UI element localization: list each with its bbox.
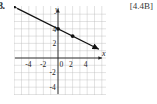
data-point (71, 34, 75, 38)
y-tick-label: 2 (53, 39, 57, 48)
y-tick-label: -4 (50, 83, 56, 92)
x-tick-label: 0 (60, 60, 64, 69)
data-point (56, 27, 60, 31)
y-tick-label: -2 (50, 68, 56, 77)
x-tick-label: 2 (69, 60, 73, 69)
graph-svg: x y -4-2024 42-2-4 (14, 6, 106, 95)
x-tick-label: -4 (25, 60, 31, 69)
x-tick-label: -2 (40, 60, 46, 69)
x-tick-label: 4 (84, 60, 88, 69)
x-axis-label: x (101, 49, 106, 58)
coordinate-graph: x y -4-2024 42-2-4 (14, 6, 106, 95)
section-reference-tag: [4.4B] (130, 2, 153, 11)
problem-number: 8. (0, 1, 5, 11)
y-axis-label: y (54, 6, 59, 14)
